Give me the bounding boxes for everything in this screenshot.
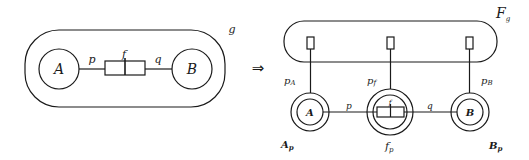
edge-q-label: q: [154, 53, 161, 66]
port-box-f: [387, 37, 394, 49]
port-box-a: [307, 37, 314, 49]
implies-arrow-icon: ⇒: [252, 59, 265, 77]
node-fp-inner-label: f: [388, 99, 393, 107]
left-diagram: A B p f q g: [25, 23, 236, 107]
node-ap-label: Ap: [280, 139, 294, 152]
port-label-a: pA: [284, 75, 295, 87]
node-bp-label: Bp: [488, 140, 502, 153]
edge-p-right-label: p: [346, 101, 352, 111]
container-fg-label: Fg: [495, 5, 511, 23]
node-ap-inner-label: A: [305, 107, 314, 118]
edge-p-label: p: [88, 53, 95, 66]
container-g-label: g: [228, 23, 235, 36]
connector-f-label: f: [121, 48, 128, 61]
edge-q-right-label: q: [427, 101, 433, 111]
port-label-f: pf: [367, 75, 377, 87]
port-label-b: pB: [481, 75, 493, 87]
node-b-label: B: [186, 61, 197, 77]
node-fp-label: fp: [384, 140, 394, 154]
diagram-canvas: A B p f q g ⇒ Fg pA pf pB A f: [0, 0, 529, 160]
node-bp-inner-label: B: [465, 107, 474, 118]
right-diagram: Fg pA pf pB A f B p q Ap fp: [280, 5, 511, 154]
port-box-b: [466, 37, 473, 49]
node-a-label: A: [52, 61, 64, 77]
